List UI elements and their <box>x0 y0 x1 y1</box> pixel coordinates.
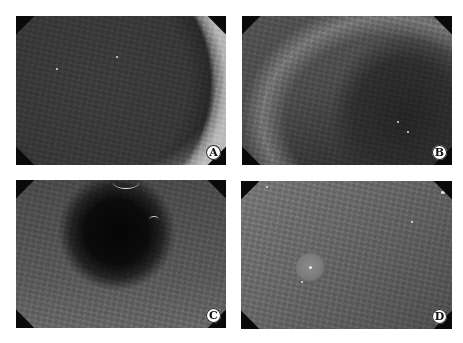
reflection-speck <box>116 56 118 58</box>
reflection-speck <box>397 121 399 123</box>
panel-label-a: A <box>206 145 221 160</box>
figure-composite: A B C D <box>0 0 463 343</box>
reflection-speck <box>266 186 268 188</box>
panel-label-d: D <box>432 309 447 324</box>
reflection-speck <box>407 131 409 133</box>
reflection-speck <box>301 281 303 283</box>
round-lesion <box>296 253 326 283</box>
panel-label-c: C <box>206 308 221 323</box>
lesion-highlight <box>309 266 312 269</box>
panel-c-image: C <box>16 180 226 328</box>
mucosa-texture <box>16 180 226 328</box>
mucosa-texture <box>16 16 226 165</box>
panel-label-b: B <box>432 145 447 160</box>
panel-a-image: A <box>16 16 226 165</box>
mucosa-texture <box>241 181 452 329</box>
panel-b-image: B <box>242 16 452 165</box>
reflection-speck <box>56 68 58 70</box>
mucosa-texture <box>242 16 452 165</box>
light-reflection-arc <box>149 216 159 223</box>
reflection-speck <box>411 221 413 223</box>
panel-d-image: D <box>241 181 452 329</box>
